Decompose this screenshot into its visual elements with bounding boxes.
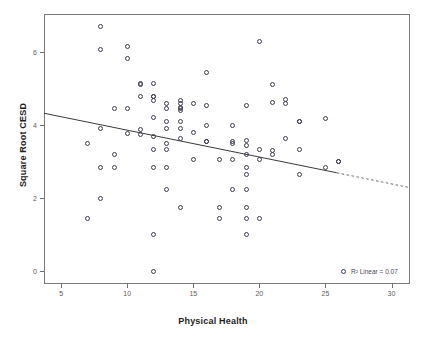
y-axis-title: Square Root CESD <box>18 60 28 230</box>
x-axis-title: Physical Health <box>0 316 426 326</box>
x-axis-tick <box>325 284 326 288</box>
x-axis-tick-label: 15 <box>189 290 197 297</box>
x-axis-tick <box>392 284 393 288</box>
x-axis-tick-label: 25 <box>322 290 330 297</box>
y-axis-tick-label: 0 <box>24 268 37 275</box>
scatter-plot-figure: 510152025300246 Square Root CESD Physica… <box>0 0 426 339</box>
y-axis-tick <box>40 52 44 53</box>
y-axis-tick <box>40 125 44 126</box>
x-axis-tick-label: 10 <box>123 290 131 297</box>
x-axis-tick <box>127 284 128 288</box>
x-axis-tick <box>61 284 62 288</box>
x-axis-tick <box>259 284 260 288</box>
x-axis-tick-label: 5 <box>59 290 63 297</box>
y-axis-tick-label: 6 <box>24 49 37 56</box>
x-axis-tick-label: 20 <box>255 290 263 297</box>
x-axis-tick-label: 30 <box>388 290 396 297</box>
x-axis-tick <box>193 284 194 288</box>
legend: R² Linear = 0.07 <box>341 268 398 275</box>
y-axis-tick <box>40 198 44 199</box>
plot-frame <box>44 14 410 284</box>
legend-label: R² Linear = 0.07 <box>351 268 398 275</box>
y-axis-tick <box>40 271 44 272</box>
legend-marker-icon <box>341 269 346 274</box>
